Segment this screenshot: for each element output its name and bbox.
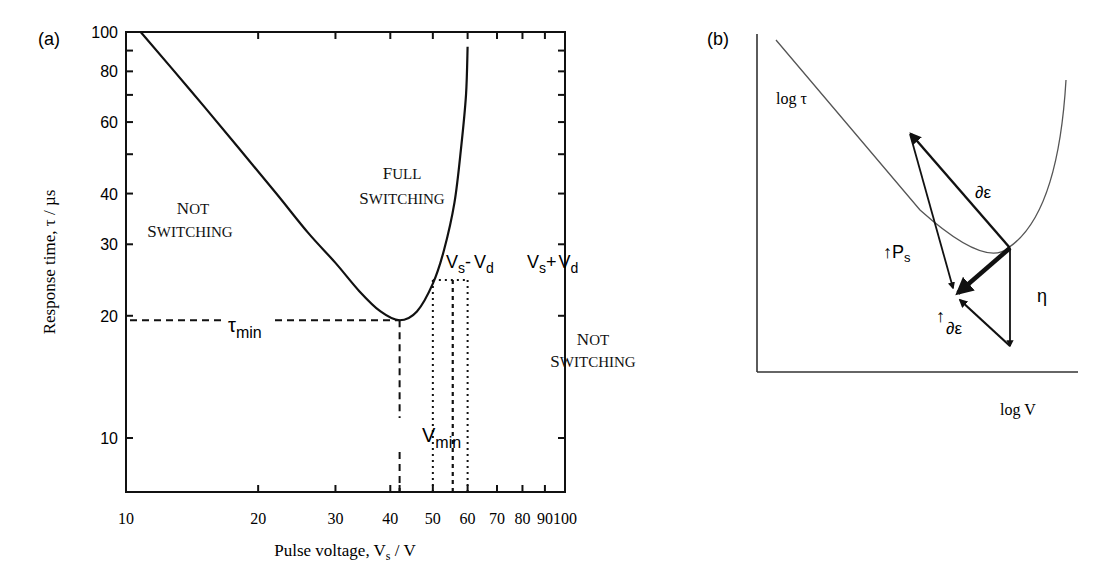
inc-d-eps-arrow <box>960 300 1010 346</box>
x-tick-label: 80 <box>514 510 530 527</box>
y-tick-label: 60 <box>100 114 118 131</box>
panel-b: (b) log τ log V ∂ε ↑Ps η ↑∂ε <box>707 29 1078 419</box>
y-tick-label: 30 <box>100 236 118 253</box>
switching-label: SWITCHING <box>359 189 444 208</box>
x-tick-label: 50 <box>425 510 441 527</box>
x-tick-label: 70 <box>489 510 505 527</box>
not-label: NOT <box>577 330 609 349</box>
inc-d-eps-label: ↑∂ε <box>936 306 962 338</box>
y-axis-title: Response time, τ / µs <box>40 190 59 335</box>
y-tick-label: 80 <box>100 63 118 80</box>
x-axis: 102030405060708090100 <box>118 32 577 527</box>
full-label: FULL <box>383 164 422 183</box>
eta-label: η <box>1037 286 1047 306</box>
switching-label: SWITCHING <box>550 352 635 371</box>
x-axis-title: Pulse voltage, Vs / V <box>274 541 416 563</box>
b-y-axis-title: log τ <box>776 90 807 108</box>
region-full-switching: FULL SWITCHING <box>359 164 444 208</box>
b-x-axis-title: log V <box>1000 401 1036 419</box>
figure: (a) 102030406080100 10203040506070809010… <box>0 0 1106 572</box>
panel-b-label: (b) <box>707 29 729 49</box>
x-tick-label: 10 <box>118 510 134 527</box>
resultant-arrow <box>958 248 1010 293</box>
vs-minus-vd-label: Vs-Vd <box>446 252 494 276</box>
not-label: NOT <box>177 199 209 218</box>
plot-frame <box>126 32 565 492</box>
x-tick-label: 30 <box>327 510 343 527</box>
y-tick-label: 100 <box>91 24 118 41</box>
v-min-label: Vmin <box>422 424 461 451</box>
d-eps-label: ∂ε <box>975 183 991 202</box>
x-tick-label: 100 <box>553 510 577 527</box>
x-tick-label: 60 <box>460 510 476 527</box>
panel-a-label: (a) <box>38 29 60 49</box>
vs-plus-vd-label: Vs+Vd <box>527 252 578 276</box>
switching-label: SWITCHING <box>147 222 232 241</box>
panel-a: (a) 102030406080100 10203040506070809010… <box>38 24 636 563</box>
tau-min-label: τmin <box>228 314 262 341</box>
x-tick-label: 90 <box>537 510 553 527</box>
y-tick-label: 10 <box>100 430 118 447</box>
ps-label: ↑Ps <box>883 242 911 265</box>
y-tick-label: 20 <box>100 308 118 325</box>
x-tick-label: 40 <box>382 510 398 527</box>
region-not-switching-right: NOT SWITCHING <box>550 330 635 371</box>
region-not-switching-left: NOT SWITCHING <box>147 199 232 241</box>
y-tick-label: 40 <box>100 186 118 203</box>
x-tick-label: 20 <box>250 510 266 527</box>
